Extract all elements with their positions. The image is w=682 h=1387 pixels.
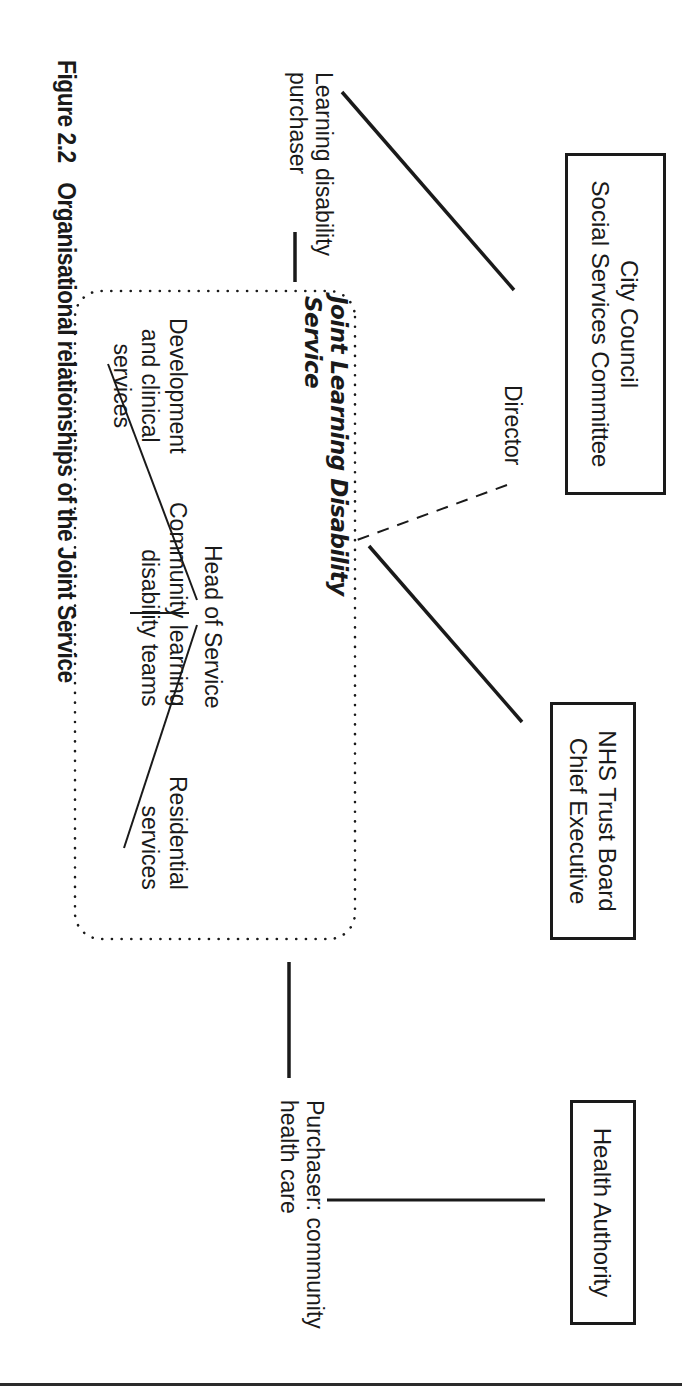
figure-page: City Council Social Services Committee N…	[0, 0, 682, 1387]
unit-development-clinical: Development and clinical services	[108, 318, 192, 454]
nhs-trust-board-label: NHS Trust Board	[593, 730, 622, 911]
health-authority-box: Health Authority	[570, 1100, 636, 1325]
chc-purchaser-line2: health care	[276, 1100, 302, 1329]
ld-purchaser-label: Learning disability purchaser	[285, 72, 337, 256]
unit-development-line1: Development	[164, 318, 192, 454]
nhs-trust-box: NHS Trust Board Chief Executive	[550, 702, 636, 940]
edge-director-ld-purchaser	[342, 92, 514, 290]
ld-purchaser-line1: Learning disability	[311, 72, 337, 256]
chc-purchaser-label: Purchaser: community health care	[276, 1100, 328, 1329]
edge-director-joint-service	[357, 485, 507, 540]
unit-community-line1: Community learning	[164, 502, 192, 707]
health-authority-label: Health Authority	[589, 1128, 618, 1297]
figure-caption: Figure 2.2Organisational relationships o…	[51, 60, 82, 683]
city-council-label: City Council	[616, 260, 645, 388]
chief-executive-label: Chief Executive	[564, 738, 593, 905]
unit-development-line3: services	[108, 318, 136, 454]
city-council-box: City Council Social Services Committee	[565, 153, 666, 495]
unit-residential-services: Residential services	[136, 776, 192, 890]
social-services-committee-label: Social Services Committee	[587, 181, 616, 468]
page-bottom-rule	[0, 1383, 682, 1386]
diagram-canvas: City Council Social Services Committee N…	[0, 0, 682, 1387]
head-of-service-label: Head of Service	[199, 545, 226, 709]
unit-community-learning-teams: Community learning disability teams	[136, 502, 192, 707]
figure-title: Organisational relationships of the Join…	[52, 182, 82, 683]
figure-number: Figure 2.2	[52, 60, 82, 163]
chc-purchaser-line1: Purchaser: community	[302, 1100, 328, 1329]
joint-service-title: Joint Learning Disability Service	[300, 296, 352, 596]
joint-service-title-line2: Service	[300, 296, 326, 596]
director-label: Director	[499, 385, 526, 466]
unit-residential-line1: Residential	[164, 776, 192, 890]
joint-service-title-line1: Joint Learning Disability	[326, 296, 352, 596]
ld-purchaser-line2: purchaser	[285, 72, 311, 256]
unit-community-line2: disability teams	[136, 502, 164, 707]
edge-nhs-joint-service	[369, 546, 522, 722]
unit-development-line2: and clinical	[136, 318, 164, 454]
unit-residential-line2: services	[136, 776, 164, 890]
